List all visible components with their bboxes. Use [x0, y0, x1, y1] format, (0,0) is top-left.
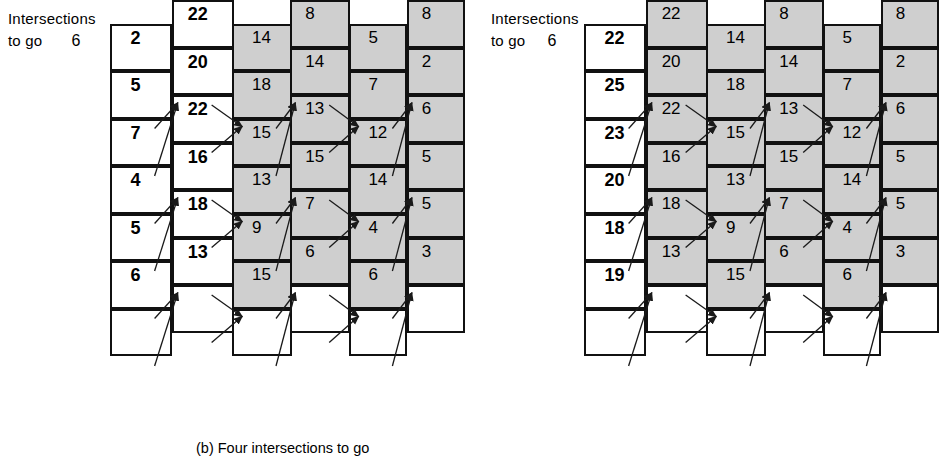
state-cell: 3	[407, 238, 465, 286]
state-cell: 5	[407, 143, 465, 191]
state-cell: 15	[706, 261, 766, 309]
state-cell: 22	[646, 95, 708, 143]
state-value: 5	[131, 218, 141, 239]
state-cell: 25	[584, 71, 646, 119]
state-cell: 13	[290, 95, 350, 143]
state-cell: 6	[764, 238, 824, 286]
state-value: 5	[896, 194, 905, 214]
state-value: 14	[779, 52, 798, 72]
state-cell: 4	[349, 214, 407, 262]
state-value: 9	[252, 218, 261, 238]
caption-b: (b) Four intersections to go	[196, 440, 369, 456]
state-cell: 5	[881, 190, 939, 238]
state-cell-empty	[764, 285, 824, 333]
state-cell: 8	[764, 0, 824, 48]
state-value: 18	[605, 218, 625, 239]
state-value: 18	[662, 194, 681, 214]
state-value: 4	[842, 218, 851, 238]
state-value: 6	[779, 242, 788, 262]
state-cell: 5	[110, 71, 172, 119]
state-cell: 14	[764, 48, 824, 96]
state-value: 13	[662, 242, 681, 262]
state-cell: 4	[110, 166, 172, 214]
state-cell: 15	[232, 119, 292, 167]
state-cell: 6	[110, 261, 172, 309]
state-cell: 5	[349, 24, 407, 72]
state-cell: 15	[706, 119, 766, 167]
state-cell-empty	[823, 309, 881, 357]
state-value: 15	[726, 123, 745, 143]
state-cell: 8	[881, 0, 939, 48]
state-value: 3	[896, 242, 905, 262]
state-value: 7	[779, 194, 788, 214]
state-cell: 13	[232, 166, 292, 214]
trellis-grid-b: 2574562220221618131418151391581413157657…	[0, 0, 480, 420]
state-value: 15	[779, 147, 798, 167]
state-value: 22	[662, 4, 681, 24]
state-value: 16	[188, 147, 208, 168]
state-value: 5	[422, 147, 431, 167]
state-cell: 13	[646, 238, 708, 286]
state-cell: 6	[290, 238, 350, 286]
state-cell: 8	[290, 0, 350, 48]
state-cell: 23	[584, 119, 646, 167]
state-cell: 6	[349, 261, 407, 309]
state-cell: 19	[584, 261, 646, 309]
state-value: 12	[368, 123, 387, 143]
state-value: 13	[305, 99, 324, 119]
state-cell-empty	[646, 285, 708, 333]
state-cell: 13	[172, 238, 234, 286]
state-cell: 15	[290, 143, 350, 191]
state-value: 7	[131, 123, 141, 144]
state-value: 4	[131, 170, 141, 191]
state-cell: 8	[407, 0, 465, 48]
state-value: 8	[305, 4, 314, 24]
state-value: 6	[842, 265, 851, 285]
state-cell: 13	[706, 166, 766, 214]
state-cell: 15	[764, 143, 824, 191]
state-cell: 16	[172, 143, 234, 191]
state-cell: 6	[881, 95, 939, 143]
state-cell: 3	[881, 238, 939, 286]
state-cell-empty	[407, 285, 465, 333]
state-value: 8	[422, 4, 431, 24]
state-value: 8	[896, 4, 905, 24]
state-cell: 18	[172, 190, 234, 238]
state-cell: 22	[172, 95, 234, 143]
state-cell: 9	[232, 214, 292, 262]
state-value: 15	[726, 265, 745, 285]
state-cell-empty	[110, 309, 172, 357]
state-value: 5	[842, 28, 851, 48]
state-value: 6	[422, 99, 431, 119]
state-cell: 16	[646, 143, 708, 191]
state-cell-empty	[172, 285, 234, 333]
state-cell-empty	[232, 309, 292, 357]
state-cell: 20	[584, 166, 646, 214]
state-cell: 14	[232, 24, 292, 72]
state-cell: 5	[110, 214, 172, 262]
state-cell: 22	[584, 24, 646, 72]
state-cell: 14	[290, 48, 350, 96]
state-cell: 2	[407, 48, 465, 96]
state-value: 13	[726, 170, 745, 190]
state-value: 18	[726, 75, 745, 95]
state-cell: 14	[349, 166, 407, 214]
state-cell: 20	[172, 48, 234, 96]
state-value: 20	[662, 52, 681, 72]
state-value: 22	[605, 28, 625, 49]
state-value: 23	[605, 123, 625, 144]
state-value: 3	[422, 242, 431, 262]
state-cell: 14	[706, 24, 766, 72]
state-value: 6	[131, 265, 141, 286]
state-cell: 9	[706, 214, 766, 262]
state-cell: 12	[349, 119, 407, 167]
state-value: 20	[188, 52, 208, 73]
state-cell: 18	[232, 71, 292, 119]
trellis-grid-c: 2225232018192220221618131418151391581413…	[483, 0, 947, 420]
state-cell: 20	[646, 48, 708, 96]
state-value: 15	[305, 147, 324, 167]
state-cell: 7	[764, 190, 824, 238]
state-value: 14	[842, 170, 861, 190]
state-value: 2	[422, 52, 431, 72]
panel-four-intersections: Intersections to go 6 5 4 3 2 1 0 257456…	[0, 0, 480, 473]
